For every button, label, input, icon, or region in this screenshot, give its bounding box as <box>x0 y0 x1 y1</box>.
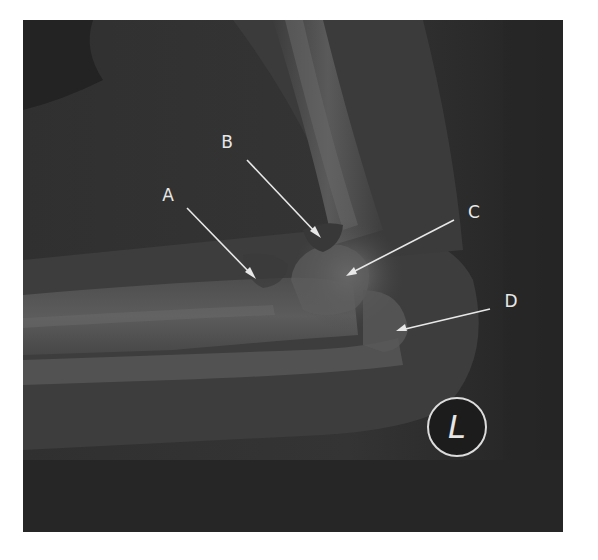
side-marker-letter: L <box>448 411 466 443</box>
side-marker-left: L <box>427 397 487 457</box>
label-c: C <box>468 204 480 221</box>
label-b: B <box>221 134 233 151</box>
label-a: A <box>162 187 174 204</box>
xray-image: A B C D L <box>23 20 563 532</box>
xray-drawing <box>23 20 563 532</box>
label-d: D <box>504 293 517 310</box>
